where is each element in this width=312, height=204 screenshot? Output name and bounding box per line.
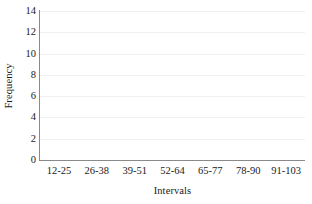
bar-slot [116, 11, 154, 160]
x-tick-label: 12-25 [40, 164, 78, 178]
x-tick-label: 65-77 [191, 164, 229, 178]
x-tick-label: 52-64 [154, 164, 192, 178]
y-tick-label: 4 [12, 112, 36, 122]
x-tick-label: 78-90 [229, 164, 267, 178]
bar-slot [154, 11, 192, 160]
y-tick-label: 6 [12, 91, 36, 101]
x-axis-tick-labels: 12-25 26-38 39-51 52-64 65-77 78-90 91-1… [40, 164, 305, 178]
y-tick-label: 14 [12, 6, 36, 16]
y-tick-label: 10 [12, 49, 36, 59]
y-tick-label: 2 [12, 134, 36, 144]
y-axis-line [39, 10, 40, 161]
bar-slot [40, 11, 78, 160]
x-tick-label: 91-103 [267, 164, 305, 178]
x-tick-label: 26-38 [78, 164, 116, 178]
bar-slot [78, 11, 116, 160]
bar-slot [229, 11, 267, 160]
chart-figure: Frequency 14 12 10 8 6 4 2 0 12-25 26-38 [0, 0, 312, 204]
y-tick-label: 12 [12, 27, 36, 37]
x-axis-title: Intervals [40, 184, 305, 198]
x-axis-line [39, 160, 305, 161]
plot-area [40, 11, 305, 160]
y-tick-label: 0 [12, 155, 36, 165]
x-tick-label: 39-51 [116, 164, 154, 178]
bar-slot [267, 11, 305, 160]
y-axis-tick-labels: 14 12 10 8 6 4 2 0 [12, 11, 36, 160]
bars-layer [40, 11, 305, 160]
y-tick-label: 8 [12, 70, 36, 80]
bar-slot [191, 11, 229, 160]
